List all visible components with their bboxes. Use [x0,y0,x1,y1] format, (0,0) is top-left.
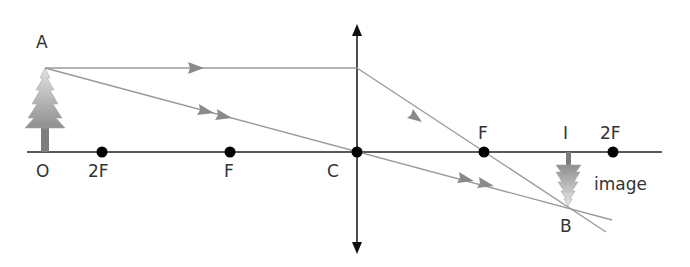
object-tree [25,68,65,152]
label-2f-right: 2F [600,125,621,142]
ray-arrow-icon [477,177,494,188]
label-2f-left: 2F [88,163,109,180]
point-c [352,147,363,158]
label-c: C [327,163,339,180]
convex-lens [352,24,362,254]
label-o: O [36,163,49,180]
ray-diagram [0,0,690,267]
ray-arrow-icon [407,109,422,122]
image-tree [556,152,581,206]
ray-arrow-icon [188,62,204,74]
lens-bottom-arrow-icon [352,242,362,254]
lens-top-arrow-icon [352,24,362,36]
ray-parallel [45,68,606,232]
label-f-right: F [478,125,488,142]
point-f-right [479,147,490,158]
label-a: A [36,34,48,51]
label-i: I [563,125,568,142]
ray-arrow-icon [457,172,474,183]
point-2f-right [608,147,619,158]
point-2f-left [97,147,108,158]
ray-through-center [45,68,612,220]
label-b: B [560,218,572,235]
label-image: image [594,176,647,193]
label-f-left: F [224,163,234,180]
point-f-left [225,147,236,158]
